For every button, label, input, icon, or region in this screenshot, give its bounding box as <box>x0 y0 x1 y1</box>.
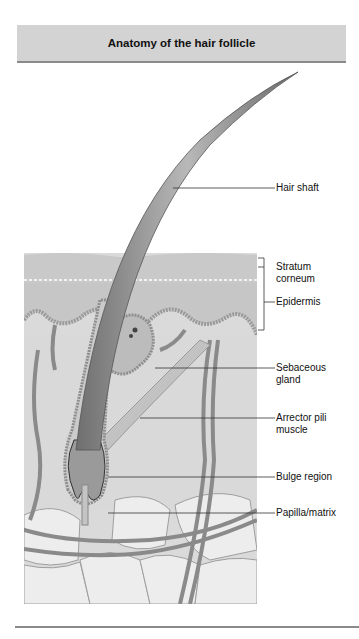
label-text: Stratum <box>276 261 315 273</box>
label-epidermis: Epidermis <box>276 296 320 308</box>
label-papilla-matrix: Papilla/matrix <box>276 507 336 519</box>
label-text: Epidermis <box>276 296 320 307</box>
label-bulge-region: Bulge region <box>276 471 332 483</box>
label-text: gland <box>276 374 326 386</box>
label-text: Sebaceous <box>276 362 326 374</box>
label-text: Arrector pili <box>276 412 327 424</box>
skin-cross-section <box>18 253 257 604</box>
label-arrector-pili: Arrector pili muscle <box>276 412 327 436</box>
label-text: Hair shaft <box>276 182 319 193</box>
label-text: muscle <box>276 424 327 436</box>
label-text: corneum <box>276 273 315 285</box>
fat-cells <box>24 494 257 604</box>
label-text: Papilla/matrix <box>276 507 336 518</box>
label-sebaceous-gland: Sebaceous gland <box>276 362 326 386</box>
hair-follicle-diagram <box>0 0 359 639</box>
label-hair-shaft: Hair shaft <box>276 182 319 194</box>
label-text: Bulge region <box>276 471 332 482</box>
label-stratum-corneum: Stratum corneum <box>276 261 315 285</box>
bottom-divider <box>15 626 359 628</box>
